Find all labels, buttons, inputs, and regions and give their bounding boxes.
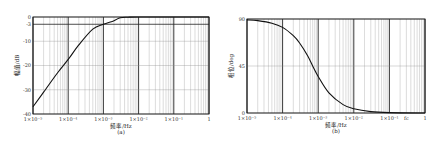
magnitude-x-tick: 1×10⁻³ [94, 116, 112, 122]
magnitude-x-tick: 1×10⁻² [129, 116, 147, 122]
phase-x-tick: 1×10⁻⁵ [238, 115, 256, 121]
phase-x-tick: 1×10⁻² [345, 115, 363, 121]
magnitude-y-tick: -20 [23, 62, 31, 68]
magnitude-y-tick: -30 [23, 87, 31, 93]
phase-y-tick-labels: 90450 [239, 16, 245, 116]
phase-chart: 904501×10⁻⁵1×10⁻⁴1×10⁻³1×10⁻²1×10⁻¹1频率/H… [220, 0, 440, 150]
phase-caption: (b) [332, 128, 340, 134]
magnitude-curve [33, 17, 209, 107]
phase-x-tick: 1×10⁻¹ [380, 115, 398, 121]
phase-y-axis-label: 相位/deg [227, 53, 235, 78]
phase-x-tick: 1×10⁻³ [309, 115, 327, 121]
magnitude-x-tick-labels: 1×10⁻⁵1×10⁻⁴1×10⁻³1×10⁻²1×10⁻¹1 [24, 116, 211, 122]
phase-y-tick: 90 [239, 16, 245, 22]
magnitude-x-tick: 1×10⁻⁵ [24, 116, 42, 122]
magnitude-x-tick: 1×10⁻⁴ [59, 116, 77, 122]
magnitude-y-tick: -3 [26, 21, 31, 27]
phase-y-tick: 45 [239, 63, 245, 69]
phase-x-tick: 1×10⁻⁴ [273, 115, 291, 121]
phase-chart-panel: 904501×10⁻⁵1×10⁻⁴1×10⁻³1×10⁻²1×10⁻¹1频率/H… [220, 0, 440, 150]
magnitude-y-tick: 0 [28, 14, 31, 20]
phase-curve [247, 20, 425, 113]
magnitude-chart-panel: 0-3-10-20-30-401×10⁻⁵1×10⁻⁴1×10⁻³1×10⁻²1… [0, 0, 220, 150]
magnitude-chart: 0-3-10-20-30-401×10⁻⁵1×10⁻⁴1×10⁻³1×10⁻²1… [0, 0, 220, 150]
phase-x-tick: 1 [423, 115, 426, 121]
magnitude-y-tick-labels: 0-3-10-20-30-40 [23, 14, 31, 117]
magnitude-y-tick: -10 [23, 38, 31, 44]
phase-annotation: fc [404, 115, 409, 121]
magnitude-y-axis-label: 幅值/dB [13, 55, 21, 76]
magnitude-caption: (a) [117, 129, 125, 135]
magnitude-x-tick: 1×10⁻¹ [165, 116, 183, 122]
magnitude-grid [33, 17, 209, 114]
magnitude-x-tick: 1 [207, 116, 210, 122]
phase-x-tick-labels: 1×10⁻⁵1×10⁻⁴1×10⁻³1×10⁻²1×10⁻¹1 [238, 115, 427, 121]
